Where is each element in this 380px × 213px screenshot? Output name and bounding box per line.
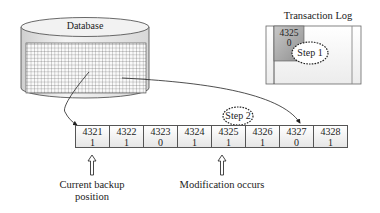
block-value: 1 [76, 138, 109, 149]
block-id: 4328 [314, 127, 347, 138]
block-value: 1 [212, 138, 245, 149]
block-value: 1 [178, 138, 211, 149]
block-value: 1 [246, 138, 279, 149]
step2-label: Step 2 [222, 110, 254, 121]
arrow-up-modification [218, 155, 226, 175]
block-value: 1 [110, 138, 143, 149]
block-cell: 43211 [75, 125, 110, 148]
arrow-up-current-backup [88, 155, 96, 175]
block-id: 4321 [76, 127, 109, 138]
step1-label: Step 1 [292, 47, 328, 58]
block-cell: 43261 [245, 125, 280, 148]
block-value: 0 [144, 138, 177, 149]
block-id: 4326 [246, 127, 279, 138]
block-cell: 43270 [279, 125, 314, 148]
current-backup-label-line2: position [52, 191, 132, 202]
current-backup-label-line1: Current backup [52, 179, 132, 190]
log-entry-block-id: 4325 [275, 28, 303, 38]
block-id: 4324 [178, 127, 211, 138]
block-cell: 43281 [313, 125, 348, 148]
block-cell: 43230 [143, 125, 178, 148]
block-cell: 43241 [177, 125, 212, 148]
block-id: 4327 [280, 127, 313, 138]
block-cell: 43221 [109, 125, 144, 148]
transaction-log-title: Transaction Log [272, 10, 364, 21]
block-value: 0 [280, 138, 313, 149]
block-id: 4323 [144, 127, 177, 138]
modification-label: Modification occurs [172, 179, 272, 190]
block-value: 1 [314, 138, 347, 149]
block-id: 4325 [212, 127, 245, 138]
block-cell: 43251 [211, 125, 246, 148]
block-id: 4322 [110, 127, 143, 138]
database-label: Database [60, 20, 110, 31]
